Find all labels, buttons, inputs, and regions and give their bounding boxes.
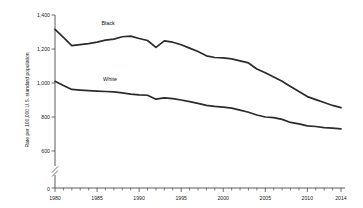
- y-tick-label-0: 0: [47, 186, 50, 192]
- x-axis-ticks: [55, 188, 341, 192]
- x-tick-label-1980: 1980: [49, 195, 61, 201]
- series-line-black: [55, 29, 341, 107]
- x-tick-label-2000: 2000: [217, 195, 229, 201]
- x-tick-label-2014: 2014: [335, 195, 347, 201]
- y-tick-label-800: 800: [41, 114, 50, 120]
- x-tick-label-1985: 1985: [91, 195, 103, 201]
- line-chart: Rate per 100,000 U.S. standard populatio…: [0, 0, 363, 208]
- y-tick-label-600: 600: [41, 148, 50, 154]
- y-tick-label-1000: 1,000: [37, 80, 50, 86]
- x-tick-label-1990: 1990: [133, 195, 145, 201]
- x-tick-label-1995: 1995: [175, 195, 187, 201]
- y-axis-title: Rate per 100,000 U.S. standard populatio…: [24, 52, 30, 147]
- y-tick-label-1400: 1,400: [37, 12, 50, 18]
- x-tick-label-2010: 2010: [302, 195, 314, 201]
- series-label-white: White: [103, 76, 117, 82]
- y-tick-label-1200: 1,200: [37, 46, 50, 52]
- x-tick-label-2005: 2005: [260, 195, 272, 201]
- series-line-white: [55, 81, 341, 129]
- chart-container: Rate per 100,000 U.S. standard populatio…: [0, 0, 363, 208]
- x-axis-labels: 19801985199019952000200520102014: [49, 195, 347, 201]
- series-label-black: Black: [101, 20, 114, 26]
